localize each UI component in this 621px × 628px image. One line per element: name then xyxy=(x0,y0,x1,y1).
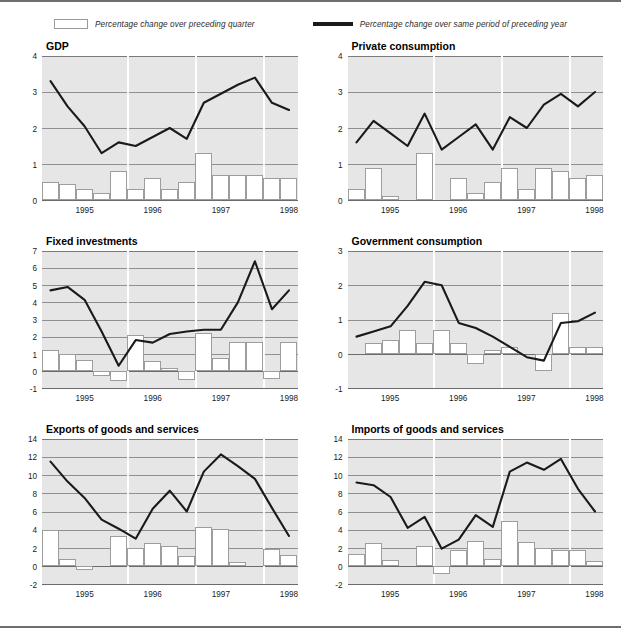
y-axis-tick-label: 3 xyxy=(338,88,343,97)
line-path xyxy=(51,78,289,154)
y-axis-tick-label: 8 xyxy=(32,489,37,498)
line-path xyxy=(356,282,594,361)
plot-background xyxy=(42,439,298,585)
plot-area: -1012345671995199619971998 xyxy=(42,251,298,389)
x-axis-tick-label: 1998 xyxy=(280,394,298,403)
y-axis-tick-label: 6 xyxy=(32,264,37,273)
y-axis-tick-label: 2 xyxy=(338,281,343,290)
plot-area: -101231995199619971998 xyxy=(348,251,604,389)
chart-panel: Imports of goods and services-2024681012… xyxy=(310,421,616,617)
x-axis-tick-label: 1997 xyxy=(212,206,230,215)
legend-item-line: Percentage change over same period of pr… xyxy=(313,20,567,29)
legend-item-bar: Percentage change over preceding quarter xyxy=(54,19,255,29)
plot-background xyxy=(348,251,604,389)
line-series xyxy=(348,251,604,388)
x-axis-tick-label: 1998 xyxy=(585,394,603,403)
x-axis-tick-label: 1995 xyxy=(75,394,93,403)
x-axis-tick-label: 1996 xyxy=(449,206,467,215)
line-series xyxy=(348,56,604,200)
y-axis-tick-label: 8 xyxy=(338,489,343,498)
line-path xyxy=(356,92,594,150)
chart-legend: Percentage change over preceding quarter… xyxy=(0,2,621,38)
figure-page: Percentage change over preceding quarter… xyxy=(0,0,621,628)
y-axis-tick-label: -2 xyxy=(30,581,37,590)
chart-panel: Fixed investments-1012345671995199619971… xyxy=(4,233,310,421)
x-axis-tick-label: 1998 xyxy=(280,206,298,215)
y-axis-tick-label: 6 xyxy=(32,508,37,517)
y-axis-tick-label: 1 xyxy=(338,160,343,169)
legend-line-swatch-icon xyxy=(313,22,353,26)
plot-background xyxy=(42,251,298,389)
line-series xyxy=(42,251,298,388)
y-axis-tick-label: 2 xyxy=(338,544,343,553)
chart-panel: Government consumption-10123199519961997… xyxy=(310,233,616,421)
y-axis-tick-label: 0 xyxy=(32,197,37,206)
x-axis-tick-label: 1996 xyxy=(449,590,467,599)
y-axis-tick-label: 0 xyxy=(338,350,343,359)
line-series xyxy=(42,439,298,584)
plot-area: -2024681012141995199619971998 xyxy=(42,439,298,585)
line-path xyxy=(51,454,289,538)
y-axis-tick-label: 12 xyxy=(28,453,37,462)
y-axis-tick-label: 2 xyxy=(32,544,37,553)
y-axis-tick-label: 7 xyxy=(32,247,37,256)
y-axis-tick-label: 3 xyxy=(338,247,343,256)
y-axis-tick-label: 5 xyxy=(32,281,37,290)
plot-background xyxy=(348,439,604,585)
y-axis-tick-label: -1 xyxy=(335,385,342,394)
x-axis-tick-label: 1996 xyxy=(144,394,162,403)
x-axis-tick-label: 1996 xyxy=(144,590,162,599)
plot-area: -2024681012141995199619971998 xyxy=(348,439,604,585)
x-axis-tick-label: 1995 xyxy=(381,590,399,599)
y-axis-tick-label: 12 xyxy=(333,453,342,462)
y-axis-tick-label: 1 xyxy=(338,316,343,325)
y-axis-tick-label: 3 xyxy=(32,316,37,325)
plot-area: 012341995199619971998 xyxy=(348,56,604,201)
y-axis-tick-label: 4 xyxy=(338,52,343,61)
y-axis-tick-label: 4 xyxy=(32,298,37,307)
y-axis-tick-label: 2 xyxy=(32,333,37,342)
y-axis-tick-label: 14 xyxy=(28,435,37,444)
chart-title: Private consumption xyxy=(352,40,456,52)
legend-line-label: Percentage change over same period of pr… xyxy=(360,20,567,29)
y-axis-tick-label: 3 xyxy=(32,88,37,97)
y-axis-tick-label: -1 xyxy=(30,385,37,394)
plot-background xyxy=(348,56,604,201)
y-axis-tick-label: 4 xyxy=(32,52,37,61)
x-axis-tick-label: 1995 xyxy=(381,394,399,403)
line-series xyxy=(42,56,298,200)
y-axis-tick-label: 10 xyxy=(28,471,37,480)
x-axis-tick-label: 1997 xyxy=(517,206,535,215)
y-axis-tick-label: 4 xyxy=(32,526,37,535)
x-axis-tick-label: 1995 xyxy=(75,590,93,599)
y-axis-tick-label: 1 xyxy=(32,350,37,359)
x-axis-tick-label: 1996 xyxy=(449,394,467,403)
chart-title: Government consumption xyxy=(352,235,483,247)
y-axis-tick-label: 4 xyxy=(338,526,343,535)
chart-title: Fixed investments xyxy=(46,235,138,247)
chart-title: Exports of goods and services xyxy=(46,423,199,435)
chart-title: GDP xyxy=(46,40,69,52)
y-axis-tick-label: 0 xyxy=(338,197,343,206)
x-axis-tick-label: 1998 xyxy=(585,206,603,215)
chart-panel: Private consumption012341995199619971998 xyxy=(310,38,616,233)
y-axis-tick-label: 6 xyxy=(338,508,343,517)
x-axis-tick-label: 1997 xyxy=(517,590,535,599)
charts-grid: GDP012341995199619971998Private consumpt… xyxy=(0,38,621,617)
x-axis-tick-label: 1995 xyxy=(381,206,399,215)
chart-panel: Exports of goods and services-2024681012… xyxy=(4,421,310,617)
y-axis-tick-label: 1 xyxy=(32,160,37,169)
plot-area: 012341995199619971998 xyxy=(42,56,298,201)
y-axis-tick-label: 10 xyxy=(333,471,342,480)
chart-panel: GDP012341995199619971998 xyxy=(4,38,310,233)
legend-bar-swatch-icon xyxy=(54,19,88,29)
chart-title: Imports of goods and services xyxy=(352,423,504,435)
y-axis-tick-label: 0 xyxy=(338,562,343,571)
line-path xyxy=(356,459,594,549)
line-series xyxy=(348,439,604,584)
x-axis-tick-label: 1998 xyxy=(585,590,603,599)
y-axis-tick-label: -2 xyxy=(335,581,342,590)
x-axis-tick-label: 1997 xyxy=(212,590,230,599)
legend-bar-label: Percentage change over preceding quarter xyxy=(95,20,255,29)
x-axis-tick-label: 1995 xyxy=(75,206,93,215)
